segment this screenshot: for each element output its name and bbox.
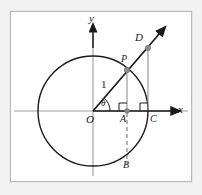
point-marker-d <box>145 45 150 50</box>
point-label-c: C <box>150 114 157 124</box>
point-label-p: P <box>121 54 127 64</box>
radius-length-label: 1 <box>101 79 107 90</box>
figure-canvas: O x y 1 θ P D A B C <box>0 0 202 195</box>
origin-label: O <box>86 114 94 125</box>
point-marker-p <box>124 67 129 72</box>
right-angle-mark-c <box>140 103 148 111</box>
angle-theta-label: θ <box>101 99 105 108</box>
y-axis-label: y <box>89 13 94 24</box>
point-label-a: A <box>120 114 126 124</box>
x-axis-label: x <box>178 104 183 115</box>
point-label-d: D <box>135 32 143 43</box>
point-label-b: B <box>123 160 129 170</box>
